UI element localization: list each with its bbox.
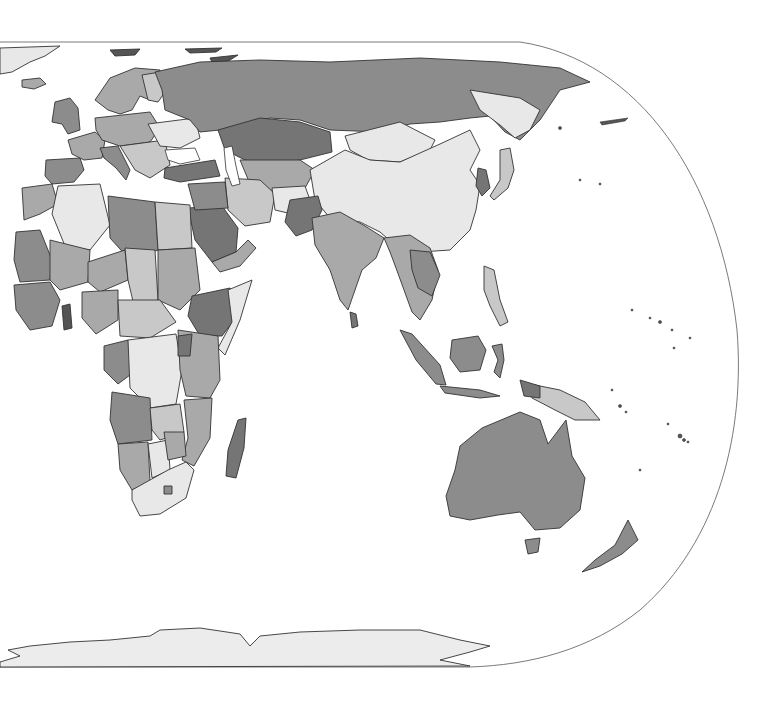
region-java — [440, 386, 500, 398]
region-japan — [490, 148, 514, 200]
region-lesotho — [164, 486, 172, 494]
region-iraq-syria — [188, 182, 228, 210]
region-angola — [110, 392, 152, 444]
region-iberia — [45, 158, 84, 184]
region-uganda — [178, 334, 192, 356]
region-arctic-islands — [185, 48, 222, 53]
region-antarctica — [0, 628, 490, 667]
region-cameroon-car — [118, 300, 176, 338]
region-sulawesi — [492, 344, 504, 378]
region-borneo — [450, 336, 486, 372]
region-svalbard — [110, 49, 140, 56]
world-map — [0, 0, 784, 709]
region-mozambique — [182, 398, 212, 466]
region-west-coast — [14, 282, 60, 330]
region-algeria — [52, 184, 110, 250]
region-tasmania — [525, 538, 540, 554]
region-philippines — [484, 266, 508, 326]
region-west-papua — [520, 380, 540, 398]
region-madagascar — [226, 418, 246, 478]
region-british-isles — [52, 98, 80, 134]
region-turkey — [164, 160, 220, 182]
region-australia — [446, 412, 585, 530]
region-sri-lanka — [350, 312, 358, 328]
region-greenland — [0, 46, 60, 74]
region-niger — [88, 250, 128, 292]
region-ghana — [62, 304, 72, 330]
region-egypt — [155, 202, 192, 250]
map-canvas — [0, 0, 784, 709]
region-iceland — [22, 78, 46, 89]
region-mauritania — [14, 230, 52, 282]
region-sumatra — [400, 330, 446, 385]
region-zimbabwe — [164, 432, 186, 460]
region-new-guinea — [530, 384, 600, 420]
region-nigeria — [82, 290, 118, 334]
black-sea — [165, 148, 200, 164]
region-new-zealand — [582, 520, 638, 572]
